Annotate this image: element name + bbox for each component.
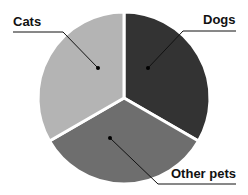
other-pets-label: Other pets bbox=[171, 167, 236, 180]
cats-dot bbox=[96, 66, 100, 70]
pie-slices bbox=[38, 12, 210, 184]
dogs-label: Dogs bbox=[203, 13, 236, 26]
other-pets-dot bbox=[108, 136, 112, 140]
cats-label: Cats bbox=[13, 15, 41, 28]
dogs-dot bbox=[146, 66, 150, 70]
